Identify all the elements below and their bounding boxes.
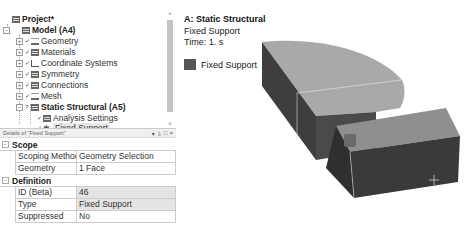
tree-item-static-structural[interactable]: − ? Static Structural (A5) <box>16 102 126 112</box>
tree-item-model[interactable]: − Model (A4) <box>3 25 75 35</box>
details-panel: Details of "Fixed Support" ▾ ⇩ □ × − Sco… <box>0 128 176 232</box>
legend: Fixed Support <box>184 59 257 70</box>
expand-icon[interactable]: + <box>16 38 23 45</box>
property-row-type[interactable]: Type Fixed Support <box>15 199 176 211</box>
auto-hide-pin-icon[interactable]: ⇩ <box>157 130 162 137</box>
project-icon <box>12 16 20 23</box>
collapse-icon[interactable]: − <box>16 104 23 111</box>
model-icon <box>22 27 30 34</box>
analysis-title: A: Static Structural <box>184 14 266 24</box>
status-unknown-icon: ? <box>25 102 30 112</box>
time-label: Time: 1. s <box>184 37 223 47</box>
tree-item-symmetry[interactable]: + ✓ Symmetry <box>16 69 79 79</box>
expand-icon[interactable]: + <box>16 60 23 67</box>
legend-swatch <box>184 59 196 70</box>
scroll-down-arrow-icon[interactable]: ˅ <box>166 120 174 128</box>
connections-icon <box>31 82 39 89</box>
expand-icon[interactable]: + <box>16 93 23 100</box>
coordinate-systems-icon <box>31 60 39 67</box>
check-icon: ✓ <box>25 69 30 79</box>
tree-item-coordinate-systems[interactable]: + ✓ Coordinate Systems <box>16 58 118 68</box>
details-title: Details of "Fixed Support" <box>3 130 66 136</box>
details-header: Details of "Fixed Support" ▾ ⇩ □ × <box>0 128 176 138</box>
check-icon: ✓ <box>25 58 30 68</box>
static-structural-icon <box>31 104 39 111</box>
property-row-geometry[interactable]: Geometry 1 Face <box>15 163 176 175</box>
property-row-scoping-method[interactable]: Scoping Method Geometry Selection <box>15 151 176 163</box>
check-icon: ✓ <box>25 36 30 46</box>
geometry-icon <box>31 38 39 45</box>
graphics-viewport[interactable]: A: Static Structural Fixed Support Time:… <box>176 0 464 232</box>
object-name: Fixed Support <box>184 26 240 36</box>
expand-icon[interactable]: + <box>16 49 23 56</box>
mesh-icon <box>31 93 39 100</box>
fixed-support-face <box>344 134 356 147</box>
expand-icon[interactable]: + <box>16 82 23 89</box>
check-icon: ✓ <box>37 113 42 123</box>
collapse-icon[interactable]: − <box>3 27 10 34</box>
dropdown-icon[interactable]: ▾ <box>152 130 155 137</box>
scroll-thumb[interactable] <box>167 20 173 112</box>
project-tree-panel: Project* − Model (A4) + ✓ Geometry + ✓ M… <box>0 0 176 130</box>
section-definition[interactable]: − Definition <box>0 175 176 187</box>
scroll-up-arrow-icon[interactable]: ˄ <box>166 10 174 18</box>
collapse-icon[interactable]: − <box>2 141 9 148</box>
details-grid: − Scope Scoping Method Geometry Selectio… <box>0 139 176 223</box>
section-scope[interactable]: − Scope <box>0 139 176 151</box>
property-row-id[interactable]: ID (Beta) 46 <box>15 187 176 199</box>
materials-icon <box>31 49 39 56</box>
tree-scrollbar[interactable]: ˄ ˅ <box>166 10 174 128</box>
check-icon: ✓ <box>25 80 30 90</box>
tree-item-geometry[interactable]: + ✓ Geometry <box>16 36 78 46</box>
analysis-settings-icon <box>43 115 51 122</box>
check-icon: ✓ <box>25 91 30 101</box>
tree-item-connections[interactable]: + ✓ Connections <box>16 80 88 90</box>
tree-item-analysis-settings[interactable]: ✓ Analysis Settings <box>37 113 118 123</box>
symmetry-icon <box>31 71 39 78</box>
tree-item-materials[interactable]: + ✓ Materials <box>16 47 75 57</box>
tree-item-project[interactable]: Project* <box>12 14 54 24</box>
expand-icon[interactable]: + <box>16 71 23 78</box>
tree-item-mesh[interactable]: + ✓ Mesh <box>16 91 62 101</box>
close-icon[interactable]: × <box>169 130 173 137</box>
collapse-icon[interactable]: − <box>2 177 9 184</box>
maximize-icon[interactable]: □ <box>164 130 168 137</box>
check-icon: ✓ <box>25 47 30 57</box>
property-row-suppressed[interactable]: Suppressed No <box>15 211 176 223</box>
